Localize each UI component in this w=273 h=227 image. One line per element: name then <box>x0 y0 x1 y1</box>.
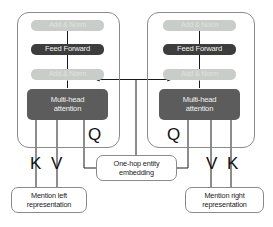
left-encoder-panel <box>17 12 120 148</box>
left-feed-forward-label: Feed Forward <box>45 45 90 54</box>
right-multi-head-attention-block[interactable]: Multi-head attention <box>159 89 240 120</box>
right-add-norm-bottom-label: Add & Norm <box>181 70 218 78</box>
right-v-label: V <box>206 155 217 172</box>
right-feed-forward-block[interactable]: Feed Forward <box>163 44 236 55</box>
mention-left-line1: Mention left <box>31 191 67 200</box>
one-hop-entity-embedding-note[interactable]: One-hop entity embedding <box>96 155 177 181</box>
right-encoder-panel <box>147 12 255 148</box>
left-k-label: K <box>30 155 41 172</box>
left-add-norm-top-block[interactable]: Add & Norm <box>31 20 104 31</box>
left-multi-head-attention-block[interactable]: Multi-head attention <box>27 89 108 120</box>
left-add-norm-bottom-label: Add & Norm <box>49 70 86 78</box>
right-mha-line2: attention <box>183 105 216 114</box>
diagram-canvas: Add & Norm Feed Forward Add & Norm Multi… <box>0 0 273 227</box>
mention-right-note[interactable]: Mention right representation <box>185 187 264 213</box>
right-feed-forward-label: Feed Forward <box>177 45 222 54</box>
left-v-label: V <box>51 155 62 172</box>
right-q-label: Q <box>167 126 180 143</box>
left-add-norm-top-label: Add & Norm <box>49 21 86 29</box>
left-multi-head-attention-label: Multi-head attention <box>51 96 84 113</box>
mention-right-note-text: Mention right representation <box>186 191 263 209</box>
one-hop-note-text: One-hop entity embedding <box>97 159 176 177</box>
left-q-label: Q <box>88 126 101 143</box>
mention-left-line2: representation <box>27 200 72 209</box>
left-feed-forward-block[interactable]: Feed Forward <box>31 44 104 55</box>
right-k-label: K <box>227 155 238 172</box>
right-multi-head-attention-label: Multi-head attention <box>183 96 216 113</box>
left-add-norm-bottom-block[interactable]: Add & Norm <box>31 69 104 80</box>
one-hop-line2: embedding <box>119 168 154 177</box>
mention-right-line1: Mention right <box>204 191 244 200</box>
right-add-norm-bottom-block[interactable]: Add & Norm <box>163 69 236 80</box>
right-add-norm-top-label: Add & Norm <box>181 21 218 29</box>
left-mha-line2: attention <box>51 105 84 114</box>
mention-right-line2: representation <box>202 200 247 209</box>
one-hop-line1: One-hop entity <box>114 159 160 168</box>
mention-left-note[interactable]: Mention left representation <box>11 187 87 213</box>
right-add-norm-top-block[interactable]: Add & Norm <box>163 20 236 31</box>
mention-left-note-text: Mention left representation <box>12 191 86 209</box>
